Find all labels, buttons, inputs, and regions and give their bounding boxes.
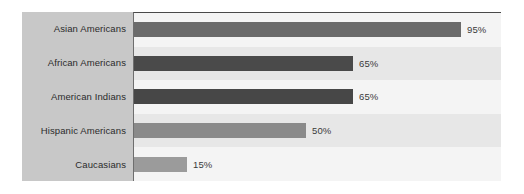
bar-african-americans: [134, 56, 353, 71]
bar-value-american-indians: 65%: [359, 91, 378, 102]
bar-value-hispanic-americans: 50%: [312, 125, 331, 136]
category-label-column: Asian Americans African Americans Americ…: [22, 12, 133, 181]
bar-hispanic-americans: [134, 123, 306, 138]
bar-value-caucasians: 15%: [193, 159, 212, 170]
category-label-text: Hispanic Americans: [41, 125, 126, 136]
category-label-hispanic-americans: Hispanic Americans: [22, 113, 133, 147]
bar-caucasians: [134, 157, 187, 172]
category-label-caucasians: Caucasians: [22, 147, 133, 181]
category-label-asian-americans: Asian Americans: [22, 12, 133, 46]
bar-row-hispanic-americans: 50%: [134, 114, 501, 148]
category-label-african-americans: African Americans: [22, 46, 133, 80]
category-label-text: Caucasians: [75, 159, 126, 170]
bar-row-african-americans: 65%: [134, 47, 501, 81]
bar-value-african-americans: 65%: [359, 58, 378, 69]
plot-area: 95% 65% 65% 50% 15%: [133, 12, 501, 181]
bar-asian-americans: [134, 22, 461, 37]
category-label-text: African Americans: [48, 57, 126, 68]
bar-row-american-indians: 65%: [134, 80, 501, 114]
category-label-text: American Indians: [51, 91, 126, 102]
bar-row-asian-americans: 95%: [134, 13, 501, 47]
bar-value-asian-americans: 95%: [467, 24, 486, 35]
category-label-text: Asian Americans: [54, 23, 126, 34]
category-label-american-indians: American Indians: [22, 80, 133, 114]
bar-american-indians: [134, 89, 353, 104]
bar-row-caucasians: 15%: [134, 147, 501, 181]
bar-chart: Asian Americans African Americans Americ…: [22, 12, 501, 181]
